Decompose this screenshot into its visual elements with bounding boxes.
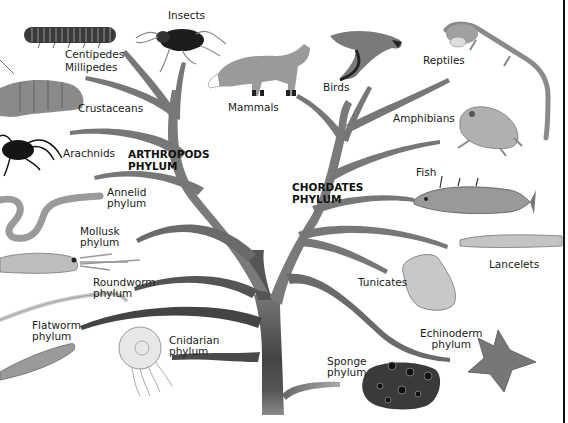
- label-roundworm-phylum: Roundworm phylum: [93, 277, 156, 299]
- label-annelid-phylum: Annelid phylum: [107, 187, 146, 209]
- label-crustaceans: Crustaceans: [78, 103, 143, 114]
- label-birds: Birds: [323, 82, 349, 93]
- label-roundworm-line2: phylum: [93, 288, 156, 299]
- label-sponge-line2: phylum: [327, 367, 367, 378]
- label-millipedes: Millipedes: [65, 62, 117, 73]
- label-flatworm-phylum: Flatworm phylum: [32, 320, 81, 342]
- tunicate-illustration: [403, 255, 456, 311]
- label-insects: Insects: [168, 10, 205, 21]
- label-lancelets: Lancelets: [489, 259, 539, 270]
- label-tunicates: Tunicates: [358, 277, 407, 288]
- label-cnidarian-phylum: Cnidarian phylum: [169, 335, 219, 357]
- arachnid-illustration: [0, 135, 62, 176]
- label-cnidarian-line2: phylum: [169, 346, 219, 357]
- label-echinoderm-phylum: Echinoderm phylum: [420, 328, 483, 350]
- label-echinoderm-line2: phylum: [420, 339, 483, 350]
- label-mammals: Mammals: [228, 102, 279, 113]
- arthropods-phylum-title: ARTHROPODS PHYLUM: [128, 148, 210, 172]
- label-reptiles: Reptiles: [423, 55, 465, 66]
- arthropods-title-line2: PHYLUM: [128, 160, 210, 172]
- label-centipedes: Centipedes: [65, 49, 124, 60]
- mollusk-illustration: [0, 253, 140, 273]
- mammal-illustration: [208, 44, 310, 96]
- cnidarian-illustration: [119, 327, 172, 396]
- phylogenetic-tree-diagram: Insects Centipedes Millipedes Crustacean…: [0, 0, 568, 423]
- branch-mammals-chordate: [296, 94, 344, 140]
- lancelet-illustration: [460, 235, 562, 248]
- sponge-illustration: [362, 362, 440, 409]
- chordates-title-line1: CHORDATES: [292, 181, 363, 193]
- branch-tunicates: [300, 238, 388, 274]
- label-sponge-phylum: Sponge phylum: [327, 356, 367, 378]
- branch-flatworm: [80, 307, 262, 330]
- flatworm-illustration: [0, 343, 75, 380]
- branch-sponge: [282, 382, 340, 400]
- amphibian-illustration: [458, 107, 522, 156]
- chordates-phylum-title: CHORDATES PHYLUM: [292, 181, 363, 205]
- millipede-illustration: [24, 27, 116, 48]
- label-fish: Fish: [416, 167, 436, 178]
- label-amphibians: Amphibians: [393, 113, 455, 124]
- arthropods-title-line1: ARTHROPODS: [128, 148, 210, 160]
- bird-illustration: [330, 31, 402, 80]
- chordates-title-line2: PHYLUM: [292, 193, 363, 205]
- label-mollusk-phylum: Mollusk phylum: [80, 226, 120, 248]
- label-mollusk-line2: phylum: [80, 237, 120, 248]
- label-flatworm-line2: phylum: [32, 331, 81, 342]
- fish-illustration: [414, 176, 536, 214]
- label-annelid-line2: phylum: [107, 198, 146, 209]
- label-arachnids: Arachnids: [63, 148, 115, 159]
- branch-insects: [174, 62, 186, 120]
